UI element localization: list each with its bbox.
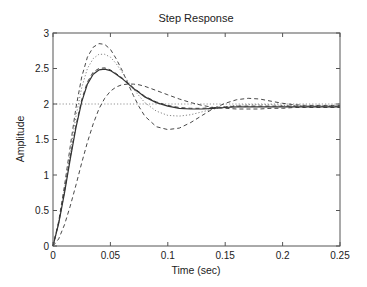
y-axis-label: Amplitude xyxy=(14,116,26,163)
y-tick-label: 3 xyxy=(43,28,49,39)
y-tick-label: 2 xyxy=(43,99,49,110)
y-axis-ticks: 00.511.522.53 xyxy=(35,28,340,252)
step-response-chart: Step Response 00.050.10.150.20.25 00.511… xyxy=(0,0,367,287)
y-tick-label: 1 xyxy=(43,170,49,181)
chart-title: Step Response xyxy=(158,12,233,24)
axes-box xyxy=(53,33,340,246)
y-tick-label: 1.5 xyxy=(35,134,49,145)
x-axis-label: Time (sec) xyxy=(171,264,220,276)
x-axis-ticks: 00.050.10.150.20.25 xyxy=(50,33,350,261)
x-tick-label: 0.1 xyxy=(161,250,175,261)
y-tick-label: 0 xyxy=(43,241,49,252)
x-tick-label: 0.2 xyxy=(276,250,290,261)
y-tick-label: 0.5 xyxy=(35,205,49,216)
plot-area xyxy=(53,33,340,246)
series-response-nominal xyxy=(53,69,340,246)
x-tick-label: 0.15 xyxy=(215,250,235,261)
series-response-high-overshoot xyxy=(53,44,340,246)
y-tick-label: 2.5 xyxy=(35,63,49,74)
series-response-medium-overshoot xyxy=(53,54,340,246)
x-tick-label: 0.05 xyxy=(101,250,121,261)
series-response-nominal-alt xyxy=(53,68,340,246)
x-tick-label: 0.25 xyxy=(330,250,350,261)
x-tick-label: 0 xyxy=(50,250,56,261)
